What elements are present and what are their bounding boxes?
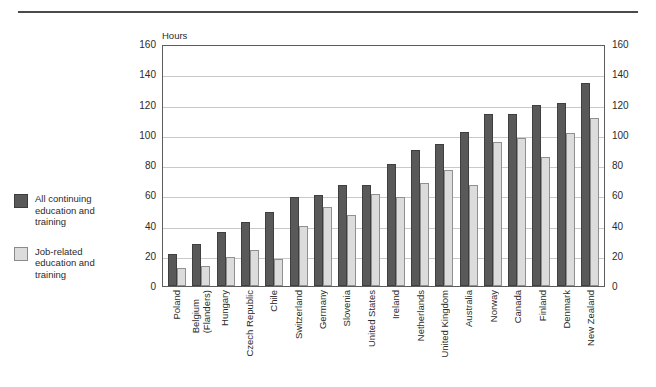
bar-job-related [274, 259, 283, 286]
x-axis-category: Chile [262, 289, 286, 385]
x-axis-category: Finland [530, 289, 554, 385]
y-axis-tick-0: 0 [612, 281, 646, 292]
bar-job-related [566, 133, 575, 286]
bar-group [554, 46, 578, 286]
x-axis-category-label: Canada [512, 290, 523, 323]
chart-legend: All continuing education and training Jo… [14, 193, 132, 298]
legend-swatch-dark-icon [14, 194, 28, 208]
legend-item-job-related: Job-related education and training [14, 246, 132, 281]
bar-all-continuing [168, 254, 177, 286]
bar-series-layer [163, 46, 604, 286]
bar-all-continuing [557, 103, 566, 286]
y-axis-tick-60: 60 [612, 190, 646, 201]
x-axis-category: Norway [481, 289, 505, 385]
x-axis-category: Canada [505, 289, 529, 385]
x-axis-category: Switzerland [286, 289, 310, 385]
x-axis-category-label: New Zealand [585, 290, 596, 346]
bar-all-continuing [338, 185, 347, 286]
x-axis-category-label: Ireland [390, 290, 401, 319]
x-axis-category-label: Switzerland [293, 290, 304, 339]
x-axis-category: Germany [310, 289, 334, 385]
bar-group [529, 46, 553, 286]
bar-all-continuing [508, 114, 517, 286]
y-axis-tick-120: 120 [124, 100, 156, 111]
x-axis-category-label: Finland [537, 290, 548, 321]
bar-group [189, 46, 213, 286]
bar-job-related [201, 266, 210, 286]
x-axis-category: United States [359, 289, 383, 385]
y-axis-unit-label: Hours [162, 30, 187, 41]
bar-job-related [469, 185, 478, 286]
y-axis-tick-80: 80 [612, 160, 646, 171]
x-axis-category-label: Netherlands [415, 290, 426, 341]
x-axis-category-label: Denmark [561, 290, 572, 329]
bar-group [578, 46, 602, 286]
y-axis-tick-100: 100 [124, 130, 156, 141]
bar-group [384, 46, 408, 286]
x-axis-category: Hungary [213, 289, 237, 385]
bar-group [359, 46, 383, 286]
y-axis-tick-160: 160 [124, 39, 156, 50]
x-axis-category-label: Slovenia [341, 290, 352, 326]
x-axis-category-label: Australia [463, 290, 474, 327]
y-axis-tick-20: 20 [124, 251, 156, 262]
legend-swatch-light-icon [14, 247, 28, 261]
x-axis-category-labels: PolandBelgium (Flanders)HungaryCzech Rep… [162, 289, 605, 385]
bar-all-continuing [581, 83, 590, 286]
x-axis-category: Denmark [554, 289, 578, 385]
x-axis-category: Czech Republic [237, 289, 261, 385]
header-divider-rule [18, 11, 638, 13]
x-axis-category-label: Germany [317, 290, 328, 329]
bar-group [335, 46, 359, 286]
bar-job-related [517, 138, 526, 286]
bar-job-related [226, 257, 235, 286]
bar-job-related [444, 170, 453, 286]
y-axis-tick-40: 40 [124, 221, 156, 232]
x-axis-category-label: Belgium (Flanders) [190, 290, 212, 333]
legend-label-job-related: Job-related education and training [35, 246, 95, 281]
y-axis-tick-120: 120 [612, 100, 646, 111]
bar-all-continuing [387, 164, 396, 287]
bar-group [481, 46, 505, 286]
y-axis-tick-0: 0 [124, 281, 156, 292]
bar-job-related [493, 142, 502, 286]
x-axis-category-label: Chile [268, 290, 279, 312]
bar-all-continuing [484, 114, 493, 286]
x-axis-category: Slovenia [335, 289, 359, 385]
bar-all-continuing [241, 222, 250, 286]
x-axis-category: Ireland [384, 289, 408, 385]
bar-group [456, 46, 480, 286]
bar-group [286, 46, 310, 286]
y-axis-tick-40: 40 [612, 221, 646, 232]
y-axis-tick-80: 80 [124, 160, 156, 171]
bar-group [505, 46, 529, 286]
y-axis-tick-140: 140 [124, 69, 156, 80]
bar-all-continuing [265, 212, 274, 286]
x-axis-category-label: Poland [171, 290, 182, 320]
bar-all-continuing [532, 105, 541, 287]
bar-all-continuing [460, 132, 469, 286]
bar-group [311, 46, 335, 286]
bar-job-related [590, 118, 599, 286]
y-axis-tick-20: 20 [612, 251, 646, 262]
bar-group [408, 46, 432, 286]
bar-all-continuing [435, 144, 444, 286]
y-axis-tick-160: 160 [612, 39, 646, 50]
x-axis-category-label: United States [366, 290, 377, 347]
legend-label-all-continuing: All continuing education and training [35, 193, 95, 228]
x-axis-category: Netherlands [408, 289, 432, 385]
x-axis-category-label: Czech Republic [244, 290, 255, 357]
bar-group [432, 46, 456, 286]
bar-job-related [371, 194, 380, 286]
x-axis-category-label: United Kingdom [439, 290, 450, 358]
bar-group [238, 46, 262, 286]
bar-all-continuing [411, 150, 420, 286]
bar-group [165, 46, 189, 286]
bar-job-related [396, 197, 405, 286]
bar-all-continuing [192, 244, 201, 286]
bar-group [262, 46, 286, 286]
chart-plot-area [162, 45, 605, 287]
x-axis-category: New Zealand [579, 289, 603, 385]
bar-all-continuing [290, 197, 299, 286]
bar-job-related [420, 183, 429, 286]
